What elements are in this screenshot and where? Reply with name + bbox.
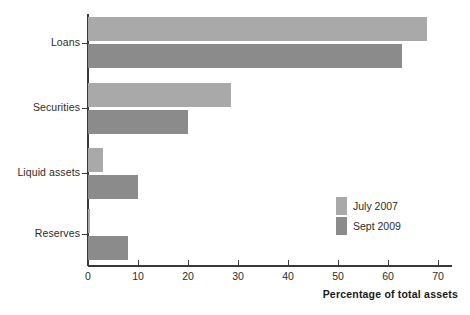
legend-swatch-icon <box>336 197 347 215</box>
x-axis-tick <box>88 260 89 266</box>
bar <box>88 209 90 233</box>
x-axis-tick <box>238 260 239 266</box>
x-axis-tick-label: 20 <box>173 270 203 282</box>
x-axis-tick-label: 40 <box>273 270 303 282</box>
bar <box>88 148 103 172</box>
x-axis-tick-label: 50 <box>323 270 353 282</box>
category-label: Reserves <box>35 227 80 239</box>
category-label: Liquid assets <box>17 166 80 178</box>
legend-label: Sept 2009 <box>353 220 401 232</box>
legend-item[interactable]: Sept 2009 <box>336 216 401 236</box>
bar <box>88 17 427 41</box>
x-axis-tick-label: 0 <box>73 270 103 282</box>
category-tick <box>82 234 88 235</box>
x-axis-tick <box>288 260 289 266</box>
x-axis-line <box>88 265 452 267</box>
legend-label: July 2007 <box>353 200 398 212</box>
chart-legend: July 2007 Sept 2009 <box>336 196 401 236</box>
x-axis-title: Percentage of total assets <box>0 288 458 300</box>
category-label: Securities <box>33 101 80 113</box>
x-axis-tick <box>438 260 439 266</box>
x-axis-tick-label: 70 <box>423 270 453 282</box>
x-axis-tick <box>388 260 389 266</box>
x-axis-tick-label: 60 <box>373 270 403 282</box>
category-tick <box>82 173 88 174</box>
bar-chart: LoansSecuritiesLiquid assetsReserves 010… <box>0 0 470 315</box>
x-axis-tick-label: 30 <box>223 270 253 282</box>
legend-swatch-icon <box>336 217 347 235</box>
category-label: Loans <box>51 36 80 48</box>
x-axis-tick <box>338 260 339 266</box>
bar <box>88 175 138 199</box>
category-tick <box>82 43 88 44</box>
x-axis-tick <box>138 260 139 266</box>
legend-item[interactable]: July 2007 <box>336 196 401 216</box>
bar <box>88 110 188 134</box>
bar <box>88 83 231 107</box>
bar <box>88 44 402 68</box>
category-tick <box>82 108 88 109</box>
x-axis-tick-label: 10 <box>123 270 153 282</box>
bar <box>88 236 128 260</box>
x-axis-tick <box>188 260 189 266</box>
